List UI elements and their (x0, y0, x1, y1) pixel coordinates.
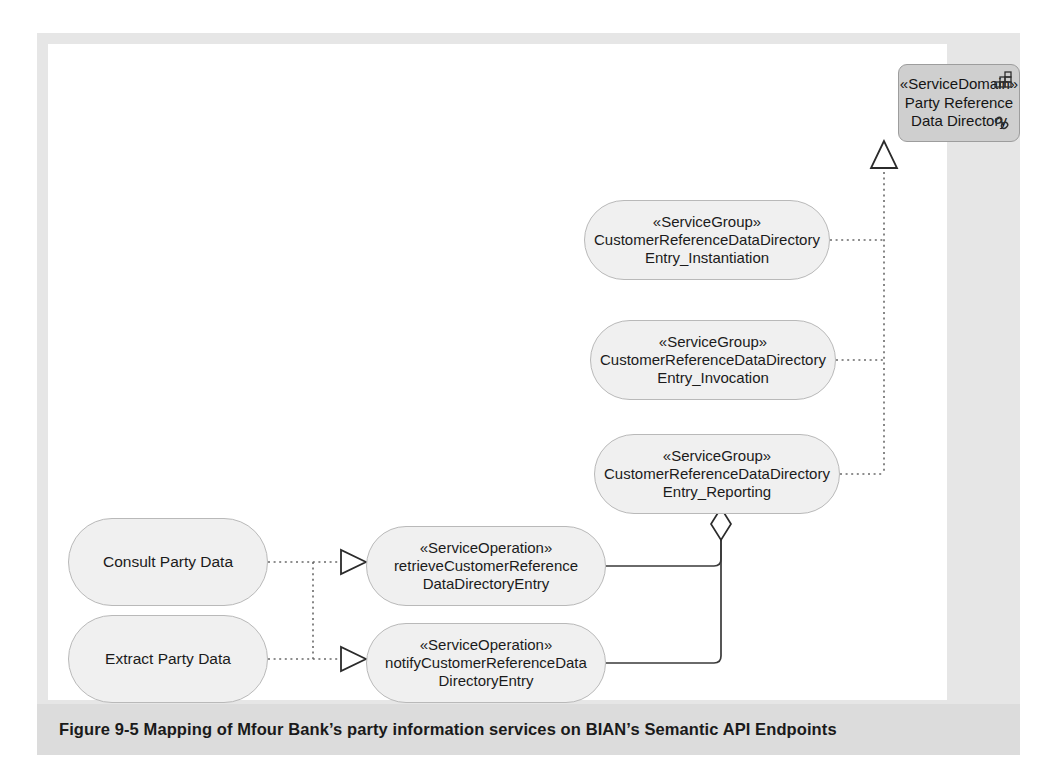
figure-page: «ServiceDomain» Party Reference Data Dir… (0, 0, 1054, 782)
service-group-entry-reporting[interactable]: «ServiceGroup» CustomerReferenceDataDire… (594, 434, 840, 514)
service-operation-1-name-line1: retrieveCustomerReference (394, 557, 578, 575)
service-group-entry-instantiation[interactable]: «ServiceGroup» CustomerReferenceDataDire… (584, 200, 830, 280)
business-service-2-label: Extract Party Data (105, 650, 231, 669)
service-group-3-name-line2: Entry_Reporting (663, 483, 771, 501)
service-operation-1-name-line2: DataDirectoryEntry (423, 575, 550, 593)
service-operation-2-name-line2: DirectoryEntry (438, 672, 533, 690)
service-group-1-name-line2: Entry_Instantiation (645, 249, 769, 267)
service-group-2-name-line1: CustomerReferenceDataDirectory (600, 351, 826, 369)
chain-link-icon (992, 115, 1012, 134)
business-service-consult-party-data[interactable]: Consult Party Data (68, 518, 268, 606)
service-group-1-name-line1: CustomerReferenceDataDirectory (594, 231, 820, 249)
service-domain-party-reference-data-directory[interactable]: «ServiceDomain» Party Reference Data Dir… (898, 64, 1020, 142)
service-group-2-stereotype: «ServiceGroup» (659, 333, 767, 351)
service-domain-name-line1: Party Reference (905, 94, 1013, 113)
service-operation-notify-customer-reference-data-directory-entry[interactable]: «ServiceOperation» notifyCustomerReferen… (366, 623, 606, 703)
figure-caption: Figure 9-5 Mapping of Mfour Bank’s party… (37, 704, 1020, 755)
service-group-3-name-line1: CustomerReferenceDataDirectory (604, 465, 830, 483)
service-group-3-stereotype: «ServiceGroup» (663, 447, 771, 465)
service-operation-2-stereotype: «ServiceOperation» (420, 636, 553, 654)
service-group-1-stereotype: «ServiceGroup» (653, 213, 761, 231)
service-group-2-name-line2: Entry_Invocation (657, 369, 769, 387)
service-group-entry-invocation[interactable]: «ServiceGroup» CustomerReferenceDataDire… (590, 320, 836, 400)
business-service-1-label: Consult Party Data (103, 553, 233, 572)
component-grid-icon (994, 70, 1014, 91)
service-operation-retrieve-customer-reference-data-directory-entry[interactable]: «ServiceOperation» retrieveCustomerRefer… (366, 526, 606, 606)
service-operation-1-stereotype: «ServiceOperation» (420, 539, 553, 557)
service-operation-2-name-line1: notifyCustomerReferenceData (385, 654, 587, 672)
business-service-extract-party-data[interactable]: Extract Party Data (68, 615, 268, 703)
